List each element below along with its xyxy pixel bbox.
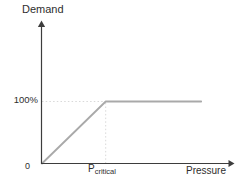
x-axis-label: Pressure	[186, 166, 226, 176]
y-axis-arrowhead-icon	[38, 21, 45, 28]
y-tick-100pct-label: 100%	[8, 95, 38, 105]
y-axis-label: Demand	[22, 4, 64, 15]
demand-pressure-chart: Demand 100% 0 Pcritical Pressure	[0, 0, 249, 188]
origin-label: 0	[25, 162, 30, 171]
pcritical-symbol: P	[88, 163, 95, 174]
x-tick-pcritical-label: Pcritical	[88, 164, 116, 176]
x-axis-arrowhead-icon	[229, 160, 235, 167]
pcritical-subscript: critical	[95, 167, 116, 176]
demand-curve-line	[42, 102, 201, 164]
